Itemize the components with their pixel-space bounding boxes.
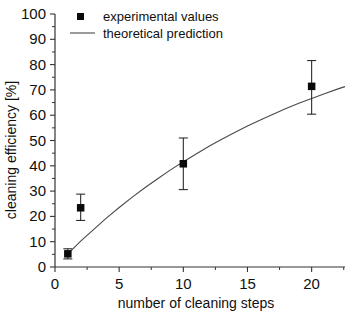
y-tick-label: 100	[21, 5, 46, 22]
y-tick-label: 0	[38, 258, 46, 275]
data-point-marker	[64, 250, 72, 258]
chart-figure: 0102030405060708090100 05101520 experime…	[0, 0, 348, 316]
data-point-marker	[308, 83, 316, 91]
x-tick-label: 10	[175, 275, 192, 292]
legend-label-experimental: experimental values	[103, 9, 219, 24]
y-tick-label: 90	[29, 30, 46, 47]
y-tick-label: 50	[29, 132, 46, 149]
legend-label-theoretical: theoretical prediction	[103, 26, 223, 41]
y-tick-label: 30	[29, 182, 46, 199]
x-axis-title: number of cleaning steps	[118, 295, 274, 311]
data-point-marker	[77, 204, 85, 212]
x-tick-label: 20	[303, 275, 320, 292]
chart-background	[0, 0, 348, 316]
y-tick-label: 10	[29, 233, 46, 250]
x-tick-label: 5	[115, 275, 123, 292]
y-tick-label: 40	[29, 157, 46, 174]
y-tick-label: 20	[29, 207, 46, 224]
efficiency-scatter-chart: 0102030405060708090100 05101520 experime…	[0, 0, 348, 316]
y-tick-label: 70	[29, 81, 46, 98]
data-point-marker	[180, 160, 188, 168]
y-tick-label: 80	[29, 56, 46, 73]
x-tick-label: 15	[239, 275, 256, 292]
legend-square-marker	[77, 13, 84, 20]
y-axis-title: cleaning efficiency [%]	[3, 81, 19, 219]
y-tick-label: 60	[29, 106, 46, 123]
x-tick-label: 0	[51, 275, 59, 292]
